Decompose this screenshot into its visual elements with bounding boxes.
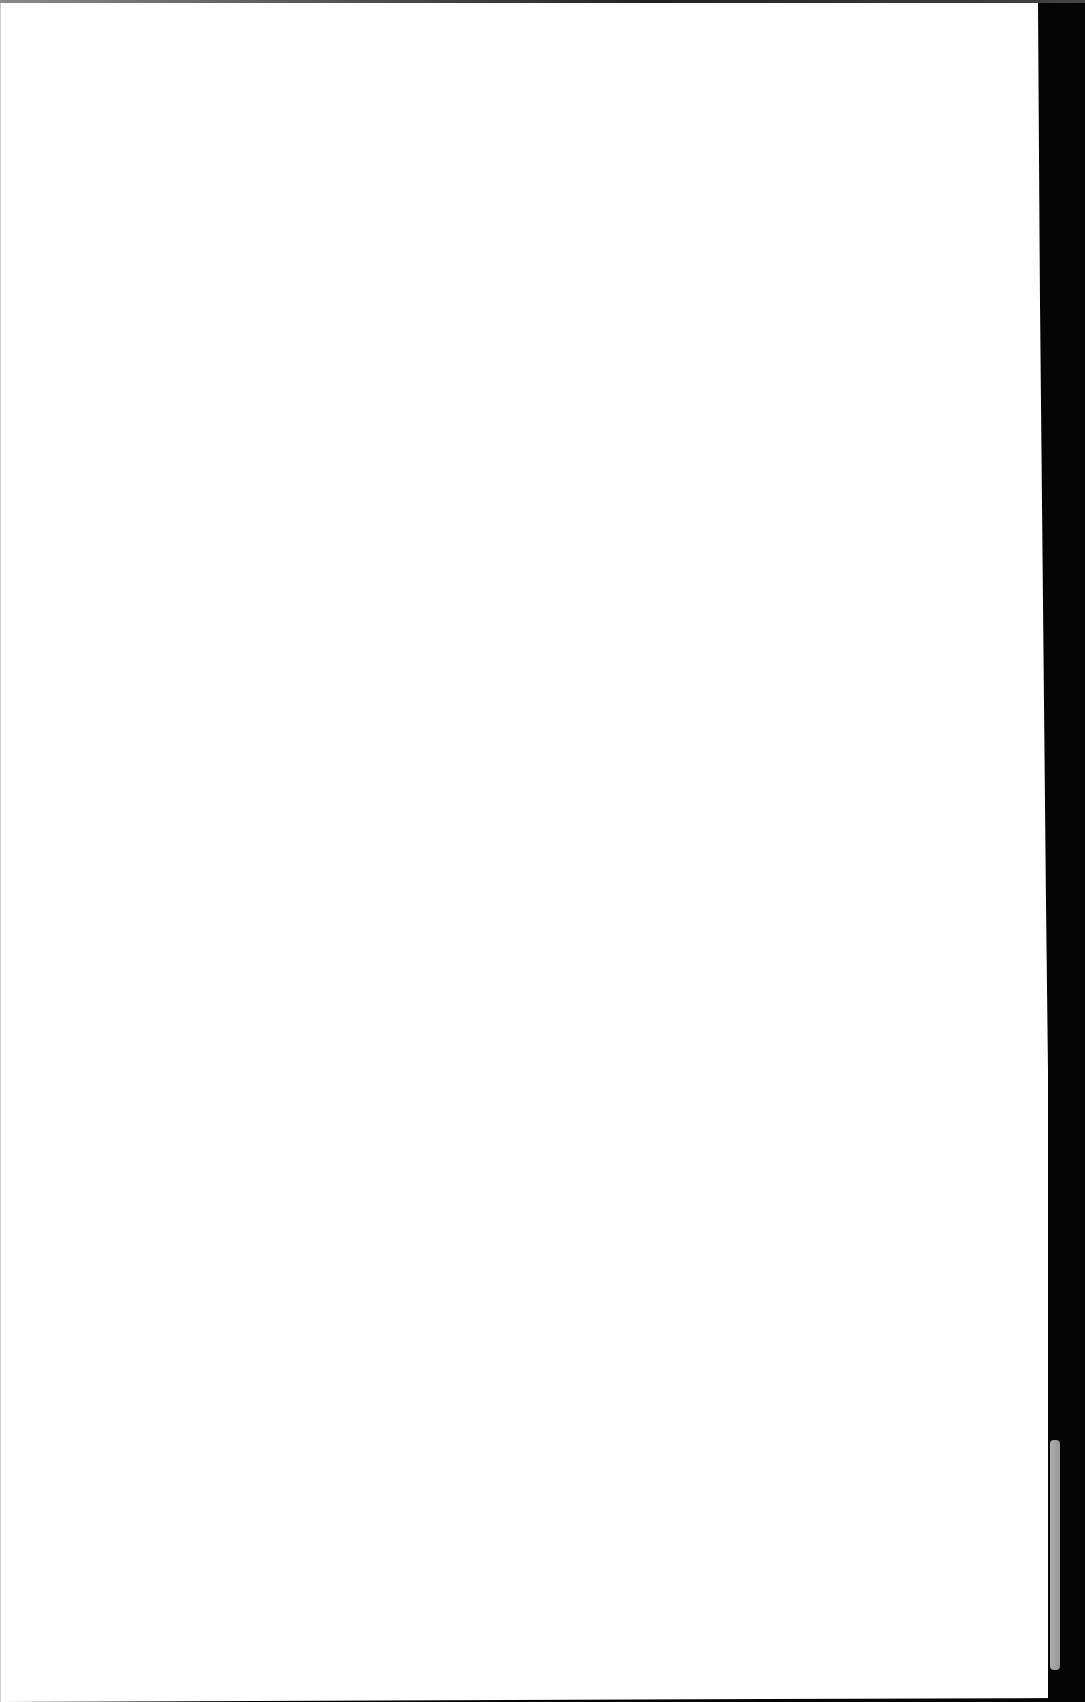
scanner-top-edge bbox=[0, 0, 1085, 3]
page-edge-shadow bbox=[1050, 1440, 1060, 1670]
blank-page bbox=[0, 3, 1048, 1702]
scanned-document bbox=[0, 0, 1085, 1702]
